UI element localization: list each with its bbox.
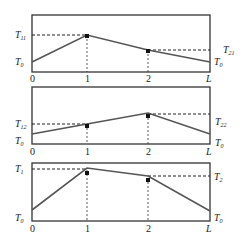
label-t0-left: T0 — [15, 212, 24, 224]
x-tick-1: 1 — [85, 223, 90, 234]
temperature-profile-diagram: T11 T0 T21 T0 0 1 2 L T12 T0 T22 T0 0 1 … — [0, 0, 242, 251]
point-marker — [146, 178, 150, 182]
x-tick-0: 0 — [30, 146, 35, 157]
x-tick-0: 0 — [30, 73, 35, 84]
panel-1: T11 T0 T21 T0 0 1 2 L — [15, 15, 235, 84]
panel-2: T12 T0 T22 T0 0 1 2 L — [15, 87, 227, 157]
x-tick-0: 0 — [30, 223, 35, 234]
label-t12: T12 — [15, 118, 27, 130]
x-tick-2: 2 — [146, 146, 151, 157]
label-t11: T11 — [15, 29, 26, 41]
panel-3-temperature-curve — [32, 168, 210, 211]
panel-3: T1 T0 T2 T0 0 1 2 L — [15, 163, 223, 234]
label-t0-right: T0 — [214, 56, 223, 68]
label-t0-right: T0 — [215, 137, 224, 149]
point-marker — [85, 171, 89, 175]
x-tick-1: 1 — [85, 73, 90, 84]
label-t0-right: T0 — [214, 212, 223, 224]
point-marker — [85, 124, 89, 128]
panel-1-temperature-curve — [32, 35, 210, 62]
label-t21: T21 — [223, 44, 235, 56]
label-t0-left: T0 — [15, 135, 24, 147]
label-t2: T2 — [214, 171, 223, 183]
x-tick-2: 2 — [146, 223, 151, 234]
label-t1: T1 — [15, 163, 24, 175]
panel-2-frame — [32, 87, 210, 144]
x-tick-l: L — [205, 73, 212, 84]
x-tick-l: L — [205, 223, 212, 234]
label-t0-left: T0 — [15, 56, 24, 68]
x-tick-l: L — [205, 146, 212, 157]
x-tick-2: 2 — [146, 73, 151, 84]
point-marker — [146, 49, 150, 53]
point-marker — [146, 114, 150, 118]
x-tick-1: 1 — [85, 146, 90, 157]
label-t22: T22 — [215, 116, 227, 128]
point-marker — [85, 34, 89, 38]
